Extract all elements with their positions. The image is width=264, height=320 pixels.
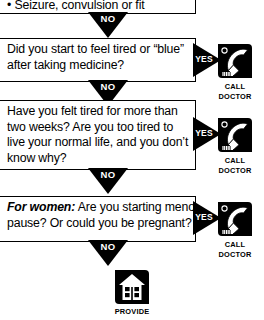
question-3-line-2: pause? Or could you be pregnant? xyxy=(7,216,189,232)
action-caption-line-1: PROVIDE xyxy=(105,308,159,317)
telephone-icon xyxy=(214,40,256,82)
question-2-line-3: live your normal life, and you don’t xyxy=(7,135,189,151)
no-label: NO xyxy=(88,241,128,252)
action-caption-line-2: DOCTOR xyxy=(208,251,262,260)
action-caption-line-2: DOCTOR xyxy=(208,93,262,102)
no-label: NO xyxy=(88,81,128,92)
question-3-line-1-rest: Are you starting meno- xyxy=(75,200,199,214)
question-box-2: Have you felt tired for more than two we… xyxy=(0,100,196,170)
no-label: NO xyxy=(88,169,128,180)
question-3-lead-italic: For women: xyxy=(7,200,75,214)
no-label: NO xyxy=(88,13,128,24)
no-arrow-4: NO xyxy=(88,240,128,266)
telephone-icon xyxy=(214,198,256,240)
no-arrow-1: NO xyxy=(88,12,128,38)
action-call-doctor-3: CALL DOCTOR xyxy=(208,198,262,259)
action-call-doctor-1: CALL DOCTOR xyxy=(208,40,262,101)
action-caption-line-1: CALL xyxy=(208,83,262,92)
house-icon xyxy=(112,267,152,307)
question-3-line-1: For women: Are you starting meno- xyxy=(7,200,189,216)
telephone-icon xyxy=(214,114,256,156)
question-2-line-2: two weeks? Are you too tired to xyxy=(7,120,189,136)
question-2-line-1: Have you felt tired for more than xyxy=(7,104,189,120)
no-arrow-3: NO xyxy=(88,168,128,194)
question-1-line-2: after taking medicine? xyxy=(7,58,189,74)
action-caption-line-2: DOCTOR xyxy=(208,167,262,176)
flowchart-canvas: • Seizure, convulsion or fit NO Did you … xyxy=(0,0,264,320)
question-2-line-4: know why? xyxy=(7,151,189,167)
action-provide-self-care: PROVIDE xyxy=(105,267,159,317)
action-caption-line-1: CALL xyxy=(208,157,262,166)
question-box-3: For women: Are you starting meno- pause?… xyxy=(0,196,196,242)
question-box-1: Did you start to feel tired or “blue” af… xyxy=(0,38,196,82)
question-1-line-1: Did you start to feel tired or “blue” xyxy=(7,42,189,58)
action-caption-line-1: CALL xyxy=(208,241,262,250)
action-call-doctor-2: CALL DOCTOR xyxy=(208,114,262,175)
